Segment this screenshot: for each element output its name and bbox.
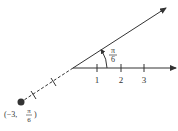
angle-label-num: π [111, 46, 115, 55]
point-label-num: π [27, 107, 31, 115]
angle-label: π 6 [109, 46, 117, 64]
dashed-tick-2 [31, 91, 36, 99]
point-label-prefix: (−3, [4, 110, 17, 119]
axis-tick-label-2: 2 [119, 75, 124, 85]
polar-diagram: 1 2 3 π 6 (−3, π 6 ) [0, 0, 178, 131]
point-label: (−3, π 6 ) [4, 107, 37, 124]
plotted-point [18, 99, 25, 106]
point-label-suffix: ) [34, 110, 37, 119]
point-label-den: 6 [27, 116, 31, 124]
angle-label-den: 6 [111, 55, 115, 64]
terminal-ray [73, 8, 166, 68]
opposite-ray-dashed [21, 68, 73, 102]
axis-tick-label-3: 3 [142, 75, 147, 85]
angle-arc [102, 51, 107, 68]
axis-tick-label-1: 1 [95, 75, 100, 85]
